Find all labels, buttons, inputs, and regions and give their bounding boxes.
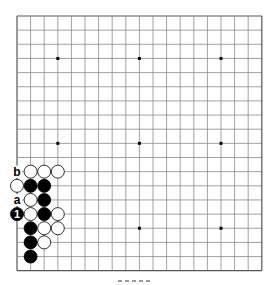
black-stone: [24, 250, 37, 263]
star-point: [138, 227, 141, 230]
stones-layer: 1: [11, 165, 65, 263]
black-stone: [38, 179, 51, 192]
point-label-b: b: [13, 165, 20, 179]
black-stone: [24, 236, 37, 249]
move-number: 1: [14, 208, 20, 220]
star-point: [138, 142, 141, 145]
white-stone: [38, 236, 51, 249]
star-point: [56, 57, 59, 60]
point-label-a: a: [14, 193, 21, 207]
star-point: [138, 57, 141, 60]
white-stone: [51, 208, 64, 221]
white-stone: [38, 222, 51, 235]
black-stone: [38, 193, 51, 206]
white-stone: [11, 179, 24, 192]
black-stone: [24, 179, 37, 192]
white-stone: [24, 193, 37, 206]
star-point: [220, 57, 223, 60]
black-stone: [24, 222, 37, 235]
white-stone: [51, 165, 64, 178]
black-stone: 1: [11, 208, 24, 221]
star-point: [220, 227, 223, 230]
diagram-caption: [118, 280, 158, 285]
white-stone: [24, 208, 37, 221]
white-stone: [51, 222, 64, 235]
white-stone: [38, 165, 51, 178]
black-stone: [38, 208, 51, 221]
star-point: [56, 142, 59, 145]
go-board: 1 ba: [0, 0, 276, 285]
white-stone: [24, 165, 37, 178]
star-point: [220, 142, 223, 145]
